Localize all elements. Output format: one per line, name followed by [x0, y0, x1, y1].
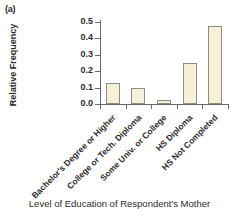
x-axis-tick-mark: [228, 105, 229, 109]
x-axis-tick-mark: [177, 105, 178, 109]
y-axis-tick-mark: [95, 22, 100, 23]
y-axis-tick-label: 0.1: [71, 83, 93, 92]
x-axis-line: [100, 104, 229, 105]
bar: [157, 100, 171, 104]
x-axis-title: Level of Education of Respondent's Mothe…: [0, 198, 239, 209]
y-axis-tick-mark: [95, 55, 100, 56]
y-axis-tick-label: 0.3: [71, 50, 93, 59]
x-axis-tick-mark: [202, 105, 203, 109]
panel-label: (a): [5, 4, 15, 14]
bar: [208, 26, 222, 104]
y-axis-tick-label: 0.2: [71, 66, 93, 75]
y-axis-tick-mark: [95, 71, 100, 72]
bar: [183, 63, 197, 104]
x-axis-tick-mark: [100, 105, 101, 109]
y-axis-tick-label: 0.5: [71, 17, 93, 26]
figure-panel-a: (a) Relative Frequency 0.00.10.20.30.40.…: [0, 0, 239, 216]
x-axis-tick-mark: [151, 105, 152, 109]
y-axis-tick-mark: [95, 88, 100, 89]
y-axis-tick-mark: [95, 38, 100, 39]
y-axis-tick-label: 0.0: [71, 99, 93, 108]
plot-area: [100, 22, 228, 104]
bar: [106, 83, 120, 104]
y-axis-title: Relative Frequency: [8, 15, 18, 115]
bar: [131, 88, 145, 104]
x-axis-tick-mark: [126, 105, 127, 109]
y-axis-tick-label: 0.4: [71, 33, 93, 42]
